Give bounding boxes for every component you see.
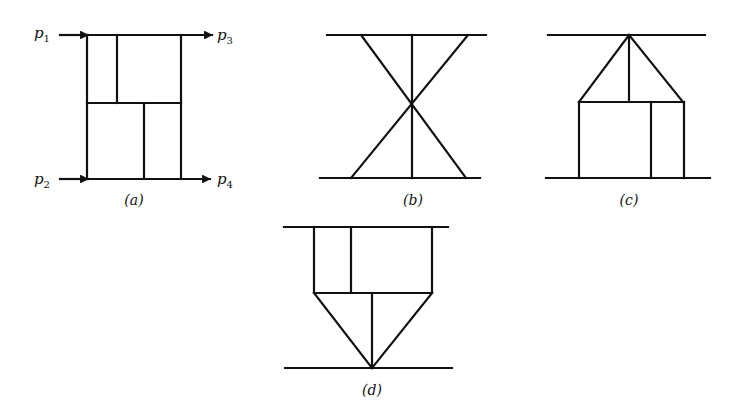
right-diagonal [629, 35, 683, 102]
label-p3: p3 [217, 26, 233, 46]
caption-c: (c) [620, 192, 639, 208]
label-p1-text: p [34, 24, 44, 42]
label-p1: p1 [34, 24, 50, 44]
caption-a: (a) [124, 192, 143, 208]
caption-d: (d) [362, 382, 382, 398]
label-p3-sub: 3 [227, 35, 233, 46]
diagram-c [546, 35, 710, 178]
label-p3-text: p [217, 26, 227, 44]
label-p2-text: p [34, 170, 44, 188]
left-diagonal [314, 293, 372, 368]
label-p2-sub: 2 [44, 179, 50, 190]
right-diagonal [372, 293, 432, 368]
left-diagonal [579, 35, 629, 102]
label-p1-sub: 1 [44, 33, 50, 44]
diagram-b [320, 35, 486, 178]
caption-b: (b) [403, 192, 423, 208]
label-p4-sub: 4 [227, 179, 233, 190]
diagram-a [60, 35, 212, 179]
label-p2: p2 [34, 170, 50, 190]
diagram-d [284, 227, 452, 368]
label-p4-text: p [217, 170, 227, 188]
label-p4: p4 [217, 170, 233, 190]
feynman-diagrams [0, 0, 736, 419]
